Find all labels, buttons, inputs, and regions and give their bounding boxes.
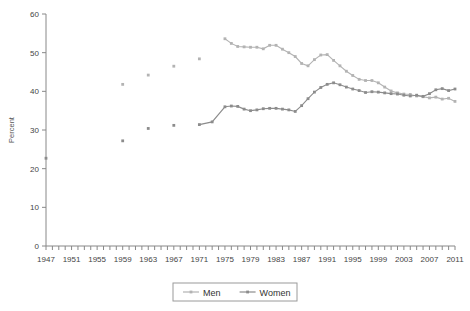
x-tick-label: 1999 bbox=[369, 255, 387, 264]
data-point-marker bbox=[281, 108, 284, 111]
data-point-marker bbox=[390, 92, 393, 95]
data-point-marker bbox=[377, 91, 380, 94]
x-tick-label: 2007 bbox=[421, 255, 439, 264]
legend-swatch-marker bbox=[190, 291, 193, 294]
data-point-marker bbox=[300, 62, 303, 65]
data-point-marker bbox=[249, 109, 252, 112]
series-women bbox=[45, 81, 457, 159]
data-point-marker bbox=[441, 87, 444, 90]
data-point-marker bbox=[345, 70, 348, 73]
legend-swatch-marker bbox=[246, 291, 249, 294]
x-tick-label: 1963 bbox=[139, 255, 157, 264]
y-tick-label: 30 bbox=[30, 126, 39, 135]
data-point-marker bbox=[364, 91, 367, 94]
data-point-marker bbox=[326, 53, 329, 56]
data-point-marker bbox=[243, 108, 246, 111]
x-tick-label: 1979 bbox=[242, 255, 260, 264]
data-point-marker bbox=[447, 89, 450, 92]
data-point-marker bbox=[422, 95, 425, 98]
data-point-marker bbox=[434, 88, 437, 91]
data-point-marker bbox=[275, 44, 278, 47]
chart-legend: MenWomen bbox=[173, 283, 297, 301]
data-point-marker bbox=[358, 78, 361, 81]
line-chart: 0102030405060 Percent 194719511955195919… bbox=[0, 0, 470, 311]
x-tick-label: 1983 bbox=[267, 255, 285, 264]
x-tick-label: 1971 bbox=[190, 255, 208, 264]
data-point-marker bbox=[255, 108, 258, 111]
data-point-marker bbox=[434, 96, 437, 99]
data-point-marker bbox=[121, 139, 124, 142]
data-point-marker bbox=[364, 79, 367, 82]
series-men bbox=[121, 37, 456, 102]
y-axis-title: Percent bbox=[7, 116, 16, 143]
series-line bbox=[199, 83, 455, 125]
data-point-marker bbox=[230, 105, 233, 108]
data-point-marker bbox=[447, 97, 450, 100]
data-point-marker bbox=[224, 105, 227, 108]
y-tick-label: 40 bbox=[30, 87, 39, 96]
x-tick-label: 1991 bbox=[318, 255, 336, 264]
data-point-marker bbox=[345, 86, 348, 89]
data-point-marker bbox=[262, 47, 265, 50]
data-point-marker bbox=[319, 54, 322, 57]
data-point-marker bbox=[243, 45, 246, 48]
data-point-marker bbox=[332, 81, 335, 84]
y-axis: 0102030405060 Percent bbox=[7, 10, 46, 251]
data-point-marker bbox=[294, 110, 297, 113]
data-point-marker bbox=[147, 74, 150, 77]
data-point-marker bbox=[332, 59, 335, 62]
x-tick-label: 1947 bbox=[37, 255, 55, 264]
x-tick-label: 1955 bbox=[88, 255, 106, 264]
x-tick-label: 1987 bbox=[293, 255, 311, 264]
chart-container: 0102030405060 Percent 194719511955195919… bbox=[0, 0, 470, 311]
data-point-marker bbox=[281, 48, 284, 51]
x-tick-label: 1975 bbox=[216, 255, 234, 264]
data-point-marker bbox=[262, 107, 265, 110]
data-point-marker bbox=[307, 97, 310, 100]
data-point-marker bbox=[172, 124, 175, 127]
y-tick-label: 60 bbox=[30, 10, 39, 19]
data-point-marker bbox=[224, 37, 227, 40]
data-point-marker bbox=[371, 90, 374, 93]
data-point-marker bbox=[172, 65, 175, 68]
y-tick-label: 0 bbox=[35, 242, 40, 251]
data-point-marker bbox=[268, 107, 271, 110]
data-point-marker bbox=[287, 108, 290, 111]
data-point-marker bbox=[454, 88, 457, 91]
data-point-marker bbox=[287, 51, 290, 54]
data-point-marker bbox=[454, 100, 457, 103]
data-point-marker bbox=[428, 97, 431, 100]
x-tick-label: 1967 bbox=[165, 255, 183, 264]
data-point-marker bbox=[428, 92, 431, 95]
data-point-marker bbox=[383, 91, 386, 94]
data-point-marker bbox=[236, 105, 239, 108]
data-point-marker bbox=[441, 98, 444, 101]
data-point-marker bbox=[402, 94, 405, 97]
x-tick-label: 1959 bbox=[114, 255, 132, 264]
data-point-marker bbox=[396, 93, 399, 96]
y-tick-label: 50 bbox=[30, 49, 39, 58]
data-point-marker bbox=[236, 45, 239, 48]
data-point-marker bbox=[255, 46, 258, 49]
y-tick-label: 10 bbox=[30, 203, 39, 212]
data-point-marker bbox=[390, 90, 393, 93]
data-point-marker bbox=[351, 74, 354, 77]
data-point-marker bbox=[121, 83, 124, 86]
data-point-marker bbox=[147, 127, 150, 130]
legend-label-women: Women bbox=[260, 288, 291, 298]
x-axis: 1947195119551959196319671971197519791983… bbox=[37, 246, 464, 264]
series-layer bbox=[45, 37, 457, 159]
data-point-marker bbox=[313, 91, 316, 94]
data-point-marker bbox=[371, 79, 374, 82]
data-point-marker bbox=[198, 123, 201, 126]
data-point-marker bbox=[383, 86, 386, 89]
x-tick-label: 1951 bbox=[63, 255, 81, 264]
data-point-marker bbox=[294, 55, 297, 58]
data-point-marker bbox=[300, 104, 303, 107]
data-point-marker bbox=[339, 83, 342, 86]
data-point-marker bbox=[326, 83, 329, 86]
data-point-marker bbox=[339, 64, 342, 67]
data-point-marker bbox=[230, 42, 233, 45]
data-point-marker bbox=[409, 95, 412, 98]
data-point-marker bbox=[377, 81, 380, 84]
